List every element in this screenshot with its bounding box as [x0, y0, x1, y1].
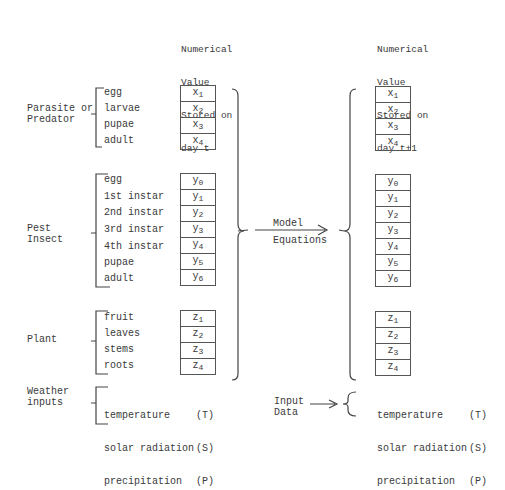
stage-label: leaves [104, 328, 140, 339]
stage-label: 3rd instar [104, 224, 164, 235]
y1-cell: y1 [376, 191, 410, 207]
y5-cell: y5 [181, 254, 215, 270]
y3-cell: y3 [376, 223, 410, 239]
x1-cell: x1 [376, 87, 410, 103]
weather-abbr: (P) [469, 476, 487, 487]
y0-cell: y0 [181, 174, 215, 190]
y2-cell: y2 [376, 207, 410, 223]
model-label-line2: Equations [273, 235, 327, 246]
left-brace [232, 89, 244, 380]
x2-cell: x2 [376, 103, 410, 119]
header-line: Numerical [377, 44, 428, 55]
weather-abbr: (S) [196, 443, 214, 454]
y3-cell: y3 [181, 222, 215, 238]
weather-item: temperature [104, 410, 170, 421]
weather-item: solar radiation [104, 443, 194, 454]
z-column-day-t1: z1 z2 z3 z4 [375, 311, 411, 376]
x-column-day-t: x1 x2 x3 x4 [180, 85, 216, 150]
stage-label: larvae [104, 103, 140, 114]
y4-cell: y4 [376, 239, 410, 255]
stage-label: fruit [104, 312, 134, 323]
y1-cell: y1 [181, 190, 215, 206]
stage-label: stems [104, 344, 134, 355]
y-column-day-t1: y0 y1 y2 y3 y4 y5 y6 [375, 174, 411, 287]
y5-cell: y5 [376, 255, 410, 271]
weather-abbr: (T) [469, 410, 487, 421]
z-column-day-t: z1 z2 z3 z4 [180, 310, 216, 375]
z3-cell: z3 [181, 343, 215, 359]
weather-item: precipitation [377, 476, 455, 487]
weather-list-right: temperature(T) solar radiation(S) precip… [377, 388, 487, 490]
weather-brace-right [343, 392, 356, 416]
weather-abbr: (P) [196, 476, 214, 487]
stage-label: egg [104, 87, 122, 98]
y4-cell: y4 [181, 238, 215, 254]
input-data-arrow [310, 400, 337, 408]
z1-cell: z1 [376, 312, 410, 328]
stage-label: adult [104, 135, 134, 146]
weather-item: temperature [377, 410, 443, 421]
x-column-day-t1: x1 x2 x3 x4 [375, 86, 411, 151]
z2-cell: z2 [376, 328, 410, 344]
y6-cell: y6 [181, 270, 215, 286]
group-weather-label: Weather inputs [27, 386, 69, 408]
z2-cell: z2 [181, 327, 215, 343]
group-plant-label: Plant [27, 334, 57, 345]
x4-cell: x4 [376, 135, 410, 151]
x3-cell: x3 [376, 119, 410, 135]
model-label-line1: Model [273, 218, 303, 229]
y6-cell: y6 [376, 271, 410, 287]
weather-abbr: (T) [196, 410, 214, 421]
weather-item: solar radiation [377, 443, 467, 454]
y2-cell: y2 [181, 206, 215, 222]
y0-cell: y0 [376, 175, 410, 191]
right-brace [344, 89, 356, 380]
x3-cell: x3 [181, 118, 215, 134]
z4-cell: z4 [181, 359, 215, 375]
input-data-label: Input Data [274, 396, 304, 418]
z4-cell: z4 [376, 360, 410, 376]
stage-label: 2nd instar [104, 207, 164, 218]
stage-label: adult [104, 273, 134, 284]
z1-cell: z1 [181, 311, 215, 327]
group-parasite-label: Parasite or Predator [27, 103, 93, 125]
stage-label: 1st instar [104, 191, 164, 202]
group-pest-label: Pest Insect [27, 223, 63, 245]
z3-cell: z3 [376, 344, 410, 360]
stage-label: 4th instar [104, 241, 164, 252]
stage-label: egg [104, 174, 122, 185]
stage-label: roots [104, 360, 134, 371]
x4-cell: x4 [181, 134, 215, 150]
x1-cell: x1 [181, 86, 215, 102]
weather-item: precipitation [104, 476, 182, 487]
y-column-day-t: y0 y1 y2 y3 y4 y5 y6 [180, 173, 216, 286]
header-line: Numerical [181, 44, 232, 55]
stage-label: pupae [104, 257, 134, 268]
weather-list-left: temperature(T) solar radiation(S) precip… [104, 388, 214, 490]
weather-abbr: (S) [469, 443, 487, 454]
stage-label: pupae [104, 119, 134, 130]
x2-cell: x2 [181, 102, 215, 118]
